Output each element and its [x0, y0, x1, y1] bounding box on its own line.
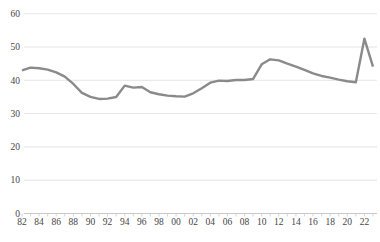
x-axis-tick-label: 16: [308, 217, 318, 227]
x-axis-tick-label: 88: [69, 217, 79, 227]
x-axis-tick-label: 08: [240, 217, 250, 227]
x-axis-tick-label: 90: [86, 217, 96, 227]
line-chart: 0102030405060828486889092949698000204060…: [0, 0, 380, 242]
y-axis-tick-label: 40: [11, 76, 21, 86]
y-axis-tick-label: 30: [11, 109, 21, 119]
data-series-line: [22, 39, 373, 99]
x-axis-tick-label: 98: [154, 217, 164, 227]
chart-container: 0102030405060828486889092949698000204060…: [0, 0, 380, 242]
y-axis-tick-label: 20: [11, 142, 21, 152]
x-axis-tick-label: 20: [343, 217, 353, 227]
x-axis-tick-label: 18: [325, 217, 335, 227]
x-axis-tick-label: 94: [120, 217, 130, 227]
x-axis-tick-label: 04: [206, 217, 216, 227]
x-axis-tick-label: 96: [137, 217, 147, 227]
x-axis-tick-label: 84: [34, 217, 44, 227]
x-axis-tick-label: 22: [360, 217, 370, 227]
x-axis-tick-label: 86: [51, 217, 61, 227]
x-axis-tick-label: 12: [274, 217, 284, 227]
x-axis-tick-label: 82: [17, 217, 27, 227]
x-axis-tick-label: 14: [291, 217, 301, 227]
y-axis-tick-label: 10: [11, 175, 21, 185]
y-axis-tick-label: 50: [11, 42, 21, 52]
x-axis-tick-label: 92: [103, 217, 113, 227]
x-axis-tick-label: 00: [171, 217, 181, 227]
x-axis-tick-label: 10: [257, 217, 267, 227]
x-axis-tick-label: 02: [188, 217, 198, 227]
y-axis-tick-label: 60: [11, 9, 21, 19]
x-axis-tick-label: 06: [223, 217, 233, 227]
